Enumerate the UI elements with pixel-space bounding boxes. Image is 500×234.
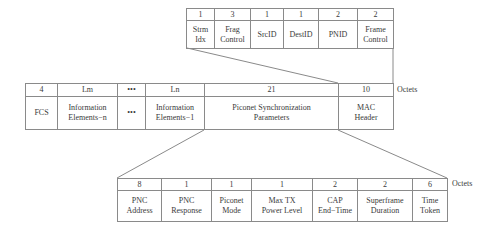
field-ie-n: Information Elements−n: [58, 97, 118, 130]
field-dest-id: DestID: [284, 21, 319, 49]
size-row: 8 1 1 1 2 2 6: [118, 179, 448, 191]
field-mac-header: MAC Header: [339, 97, 394, 130]
size-src-id: 1: [251, 9, 284, 21]
size-mac-header: 10: [339, 84, 394, 97]
size-fcs: 4: [26, 84, 58, 97]
beacon-frame-table: 4 Lm ••• Ln 21 10 FCS Information Elemen…: [25, 83, 394, 130]
field-row: FCS Information Elements−n ••• Informati…: [26, 97, 394, 130]
bottom-octets-label: Octets: [452, 179, 472, 188]
field-pnid: PNID: [319, 21, 358, 49]
size-time-token: 6: [413, 179, 448, 191]
field-fcs: FCS: [26, 97, 58, 130]
field-row: Strm Idx Frag Control SrcID DestID PNID …: [187, 21, 394, 49]
size-dest-id: 1: [284, 9, 319, 21]
size-row: 1 3 1 1 2 2: [187, 9, 394, 21]
field-row: PNC Address PNC Response Piconet Mode Ma…: [118, 191, 448, 222]
size-piconet-mode: 1: [212, 179, 252, 191]
field-piconet-mode: Piconet Mode: [212, 191, 252, 222]
size-max-tx-power: 1: [252, 179, 313, 191]
top-expansion-line-left: [187, 48, 338, 83]
field-max-tx-power: Max TX Power Level: [252, 191, 313, 222]
size-ellipsis: •••: [118, 84, 146, 97]
size-strm-idx: 1: [187, 9, 215, 21]
size-frame-control: 2: [358, 9, 394, 21]
size-pnid: 2: [319, 9, 358, 21]
field-superframe-duration: Superframe Duration: [358, 191, 413, 222]
size-frag-control: 3: [215, 9, 251, 21]
field-pnc-response: PNC Response: [162, 191, 212, 222]
size-piconet-sync: 21: [205, 84, 339, 97]
size-superframe-duration: 2: [358, 179, 413, 191]
middle-octets-label: Octets: [397, 85, 417, 94]
mac-header-table: 1 3 1 1 2 2 Strm Idx Frag Control SrcID …: [186, 8, 394, 49]
size-row: 4 Lm ••• Ln 21 10: [26, 84, 394, 97]
size-pnc-response: 1: [162, 179, 212, 191]
size-ie-n: Lm: [58, 84, 118, 97]
bottom-expansion-line-right: [338, 130, 447, 178]
field-cap-end-time: CAP End−Time: [313, 191, 358, 222]
bottom-expansion-line-left: [117, 130, 204, 178]
size-cap-end-time: 2: [313, 179, 358, 191]
field-frame-control: Frame Control: [358, 21, 394, 49]
field-pnc-address: PNC Address: [118, 191, 162, 222]
field-strm-idx: Strm Idx: [187, 21, 215, 49]
field-time-token: Time Token: [413, 191, 448, 222]
piconet-sync-table: 8 1 1 1 2 2 6 PNC Address PNC Response P…: [117, 178, 448, 222]
size-pnc-address: 8: [118, 179, 162, 191]
field-frag-control: Frag Control: [215, 21, 251, 49]
field-piconet-sync: Piconet Synchronization Parameters: [205, 97, 339, 130]
size-ie-1: Ln: [146, 84, 205, 97]
field-ie-1: Information Elements−1: [146, 97, 205, 130]
field-src-id: SrcID: [251, 21, 284, 49]
field-ellipsis: •••: [118, 97, 146, 130]
